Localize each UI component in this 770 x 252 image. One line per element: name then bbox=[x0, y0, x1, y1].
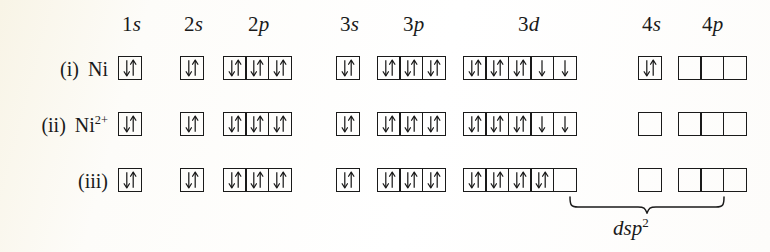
orbital-box-3p-2 bbox=[399, 112, 423, 136]
orbital-group-1s-row2 bbox=[118, 112, 142, 136]
row-label-3: (iii) bbox=[78, 171, 108, 191]
orbital-box-3d-5 bbox=[553, 112, 577, 136]
orbital-group-1s-row1 bbox=[118, 56, 142, 80]
paired-electrons-icon bbox=[464, 113, 486, 135]
paired-electrons-icon bbox=[486, 113, 508, 135]
orbital-box-3d-3 bbox=[508, 168, 532, 192]
orbital-group-4p-row2 bbox=[678, 112, 747, 136]
row-index-label: (iii) bbox=[78, 170, 108, 192]
orbital-box-2p-2 bbox=[245, 56, 269, 80]
paired-electrons-icon bbox=[269, 169, 291, 191]
orbital-box-4p-2 bbox=[700, 56, 724, 80]
column-header-shell: 3 bbox=[340, 12, 351, 36]
column-header-subshell: p bbox=[259, 12, 270, 36]
row-species-label: Ni bbox=[88, 58, 108, 80]
orbital-group-3p-row3 bbox=[377, 168, 446, 192]
orbital-group-2s-row2 bbox=[180, 112, 204, 136]
paired-electrons-icon bbox=[224, 113, 246, 135]
paired-electrons-icon bbox=[337, 113, 359, 135]
orbital-box-3p-3 bbox=[422, 112, 446, 136]
paired-electrons-icon bbox=[400, 169, 422, 191]
column-header-2s: 2s bbox=[184, 14, 203, 35]
orbital-box-3d-4 bbox=[530, 56, 554, 80]
paired-electrons-icon bbox=[509, 57, 531, 79]
orbital-box-2s-1 bbox=[180, 56, 204, 80]
paired-electrons-icon bbox=[181, 57, 203, 79]
orbital-box-3s-1 bbox=[336, 56, 360, 80]
orbital-group-2s-row3 bbox=[180, 168, 204, 192]
orbital-box-4p-1 bbox=[678, 112, 702, 136]
row-species-charge: 2+ bbox=[95, 113, 108, 127]
orbital-box-3d-3 bbox=[508, 56, 532, 80]
orbital-group-1s-row3 bbox=[118, 168, 142, 192]
column-header-2p: 2p bbox=[248, 14, 269, 35]
orbital-box-4p-3 bbox=[723, 56, 747, 80]
column-header-3d: 3d bbox=[518, 14, 539, 35]
orbital-box-3s-1 bbox=[336, 112, 360, 136]
paired-electrons-icon bbox=[246, 113, 268, 135]
column-header-subshell: d bbox=[529, 12, 540, 36]
orbital-group-2p-row3 bbox=[223, 168, 292, 192]
orbital-box-3p-1 bbox=[377, 112, 401, 136]
paired-electrons-icon bbox=[378, 113, 400, 135]
column-header-subshell: s bbox=[653, 12, 661, 36]
orbital-box-3d-5 bbox=[553, 56, 577, 80]
paired-electrons-icon bbox=[119, 57, 141, 79]
column-header-shell: 3 bbox=[403, 12, 414, 36]
paired-electrons-icon bbox=[119, 169, 141, 191]
row-species-label: Ni2+ bbox=[75, 114, 108, 136]
orbital-group-3s-row3 bbox=[336, 168, 360, 192]
orbital-group-3d-row1 bbox=[463, 56, 577, 80]
orbital-group-4s-row3 bbox=[638, 168, 662, 192]
orbital-box-4p-1 bbox=[678, 56, 702, 80]
paired-electrons-icon bbox=[246, 169, 268, 191]
column-header-shell: 2 bbox=[184, 12, 195, 36]
orbital-box-3s-1 bbox=[336, 168, 360, 192]
paired-electrons-icon bbox=[486, 57, 508, 79]
paired-electrons-icon bbox=[246, 57, 268, 79]
orbital-box-4p-2 bbox=[700, 112, 724, 136]
spin-down-arrow-icon bbox=[554, 113, 576, 135]
orbital-box-2p-2 bbox=[245, 112, 269, 136]
orbital-box-2p-3 bbox=[268, 56, 292, 80]
orbital-box-3d-2 bbox=[485, 112, 509, 136]
paired-electrons-icon bbox=[509, 169, 531, 191]
paired-electrons-icon bbox=[224, 57, 246, 79]
paired-electrons-icon bbox=[464, 57, 486, 79]
orbital-box-2s-1 bbox=[180, 112, 204, 136]
paired-electrons-icon bbox=[269, 57, 291, 79]
dsp2-label-base: dsp bbox=[613, 216, 642, 240]
spin-down-arrow-icon bbox=[531, 57, 553, 79]
orbital-box-3d-5 bbox=[553, 168, 577, 192]
row-label-2: (ii)Ni2+ bbox=[41, 115, 108, 135]
orbital-group-3s-row2 bbox=[336, 112, 360, 136]
orbital-box-4p-2 bbox=[700, 168, 724, 192]
orbital-box-3p-2 bbox=[399, 168, 423, 192]
paired-electrons-icon bbox=[400, 57, 422, 79]
column-header-subshell: s bbox=[351, 12, 359, 36]
column-header-shell: 1 bbox=[122, 12, 133, 36]
paired-electrons-icon bbox=[531, 169, 553, 191]
paired-electrons-icon bbox=[486, 169, 508, 191]
orbital-group-4s-row1 bbox=[638, 56, 662, 80]
paired-electrons-icon bbox=[337, 169, 359, 191]
orbital-group-3d-row2 bbox=[463, 112, 577, 136]
column-header-shell: 2 bbox=[248, 12, 259, 36]
orbital-box-2p-3 bbox=[268, 112, 292, 136]
spin-down-arrow-icon bbox=[554, 57, 576, 79]
column-header-subshell: p bbox=[713, 12, 724, 36]
orbital-group-4s-row2 bbox=[638, 112, 662, 136]
orbital-group-3d-row3 bbox=[463, 168, 577, 192]
paired-electrons-icon bbox=[181, 113, 203, 135]
column-header-3p: 3p bbox=[403, 14, 424, 35]
orbital-group-2s-row1 bbox=[180, 56, 204, 80]
orbital-box-3d-2 bbox=[485, 56, 509, 80]
orbital-box-2p-1 bbox=[223, 56, 247, 80]
column-header-shell: 4 bbox=[702, 12, 713, 36]
paired-electrons-icon bbox=[337, 57, 359, 79]
orbital-box-2p-1 bbox=[223, 112, 247, 136]
paired-electrons-icon bbox=[400, 113, 422, 135]
orbital-group-3p-row1 bbox=[377, 56, 446, 80]
paired-electrons-icon bbox=[378, 169, 400, 191]
dsp2-brace bbox=[568, 196, 726, 214]
